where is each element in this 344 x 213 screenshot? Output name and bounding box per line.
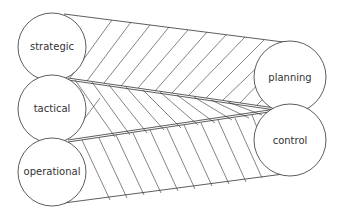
node-label: tactical: [34, 103, 71, 114]
hatch-lower: [82, 115, 270, 200]
node-control: control: [254, 104, 326, 176]
node-strategic: strategic: [18, 13, 86, 81]
node-operational: operational: [18, 138, 86, 206]
hatch-upper: [70, 20, 270, 105]
node-label: planning: [268, 72, 311, 83]
node-label: operational: [24, 166, 81, 177]
node-label: control: [273, 135, 308, 146]
left-nodes: strategic tactical operational: [18, 13, 86, 206]
hierarchy-diagram: strategic tactical operational planning …: [0, 0, 344, 213]
node-label: strategic: [30, 41, 74, 52]
node-tactical: tactical: [18, 75, 86, 143]
hatch-middle: [70, 80, 262, 138]
node-planning: planning: [254, 41, 326, 113]
